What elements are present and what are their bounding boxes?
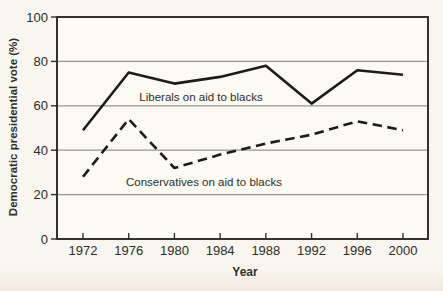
x-tick-label-1996: 1996 — [343, 243, 372, 258]
x-tick-label-1984: 1984 — [206, 243, 235, 258]
y-tick-label-100: 100 — [26, 10, 48, 25]
series-label-liberals: Liberals on aid to blacks — [139, 91, 262, 103]
x-tick-label-1992: 1992 — [297, 243, 326, 258]
y-tick-label-20: 20 — [34, 187, 48, 202]
x-tick-label-1972: 1972 — [69, 243, 98, 258]
x-tick-label-1976: 1976 — [114, 243, 143, 258]
x-tick-label-1988: 1988 — [251, 243, 280, 258]
y-axis-title: Democratic presidential vote (%) — [7, 38, 19, 216]
line-chart-figure: 0204060801001972197619801984198819921996… — [0, 0, 443, 291]
x-axis-title: Year — [232, 265, 257, 279]
series-label-conservatives: Conservatives on aid to blacks — [126, 176, 282, 188]
x-tick-label-2000: 2000 — [389, 243, 418, 258]
plot-background — [57, 17, 428, 239]
x-tick-label-1980: 1980 — [160, 243, 189, 258]
chart-canvas: 0204060801001972197619801984198819921996… — [0, 0, 443, 291]
y-tick-label-40: 40 — [34, 143, 48, 158]
y-tick-label-80: 80 — [34, 54, 48, 69]
y-tick-label-0: 0 — [41, 232, 48, 247]
y-tick-label-60: 60 — [34, 98, 48, 113]
